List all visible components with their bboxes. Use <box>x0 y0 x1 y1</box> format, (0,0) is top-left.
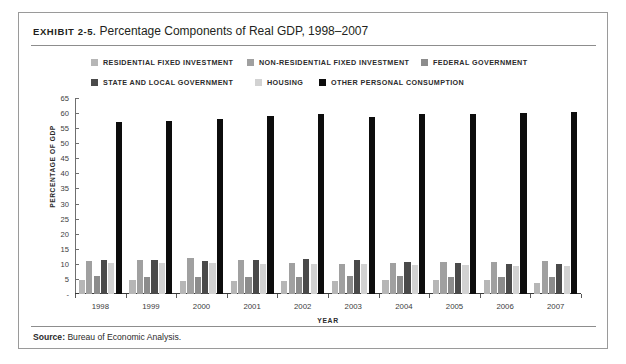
y-axis-tick-label: 40 <box>45 169 69 178</box>
y-axis-tick-label: 45 <box>45 154 69 163</box>
y-axis-tick-label: 60 <box>45 109 69 118</box>
chart-bar[interactable] <box>267 116 273 294</box>
chart-bar[interactable] <box>101 260 107 294</box>
x-axis-tick-mark <box>530 294 531 298</box>
x-axis-tick-mark <box>379 294 380 298</box>
chart-bar[interactable] <box>116 122 122 294</box>
chart-bar[interactable] <box>419 114 425 294</box>
bar-group <box>126 98 177 294</box>
chart-bar[interactable] <box>253 260 259 294</box>
chart-bar[interactable] <box>470 114 476 294</box>
x-axis-tick-label: 2005 <box>428 302 482 311</box>
bar-group <box>277 98 328 294</box>
chart-bar[interactable] <box>542 261 548 294</box>
chart-bar[interactable] <box>166 121 172 294</box>
chart-bar[interactable] <box>296 277 302 294</box>
chart-bar[interactable] <box>303 259 309 294</box>
x-axis-tick-label: 2006 <box>478 302 532 311</box>
chart-bar[interactable] <box>354 260 360 294</box>
chart-bar[interactable] <box>260 264 266 294</box>
chart-bar[interactable] <box>491 262 497 294</box>
y-axis-tick-label: 20 <box>45 229 69 238</box>
chart-bar[interactable] <box>94 276 100 294</box>
chart-bar[interactable] <box>311 264 317 294</box>
x-axis-tick-label: 2000 <box>175 302 229 311</box>
x-axis-tick-mark <box>581 294 582 298</box>
x-axis-tick-mark <box>328 294 329 298</box>
chart-bar[interactable] <box>245 277 251 294</box>
y-axis-tick-label: 5 <box>45 274 69 283</box>
chart-bar[interactable] <box>412 265 418 294</box>
chart-bar[interactable] <box>187 258 193 294</box>
chart-bar[interactable] <box>332 281 338 294</box>
x-axis-tick-label: 2003 <box>326 302 380 311</box>
bar-group <box>75 98 126 294</box>
x-axis-tick-mark <box>176 294 177 298</box>
y-axis-tick-label: 50 <box>45 139 69 148</box>
chart-bar[interactable] <box>79 280 85 294</box>
chart-bar[interactable] <box>347 276 353 294</box>
chart-bar[interactable] <box>318 114 324 294</box>
chart-bar[interactable] <box>289 263 295 294</box>
y-axis-tick-label: 25 <box>45 214 69 223</box>
chart-bar[interactable] <box>159 263 165 294</box>
x-axis-tick-mark <box>429 294 430 298</box>
x-axis-tick-label: 2004 <box>377 302 431 311</box>
chart-bar[interactable] <box>281 281 287 294</box>
chart-bar[interactable] <box>404 262 410 294</box>
chart-bar[interactable] <box>513 266 519 294</box>
x-axis-tick-label: 2007 <box>529 302 583 311</box>
bar-group <box>530 98 581 294</box>
chart-bar[interactable] <box>108 263 114 294</box>
chart-bar[interactable] <box>369 117 375 294</box>
chart-bar[interactable] <box>506 264 512 294</box>
chart-bar[interactable] <box>129 280 135 294</box>
y-axis-tick-label: 35 <box>45 184 69 193</box>
chart-bar[interactable] <box>433 280 439 294</box>
chart-bar[interactable] <box>571 112 577 294</box>
x-axis-title: YEAR <box>75 317 581 324</box>
x-axis-tick-label: 2001 <box>225 302 279 311</box>
chart-bar[interactable] <box>382 280 388 294</box>
chart-bar[interactable] <box>549 277 555 294</box>
chart-bar[interactable] <box>390 263 396 294</box>
chart-bar[interactable] <box>556 264 562 294</box>
chart-bar[interactable] <box>195 277 201 294</box>
bar-group <box>227 98 278 294</box>
bar-group <box>379 98 430 294</box>
chart-bar[interactable] <box>180 281 186 294</box>
chart-bar[interactable] <box>231 281 237 294</box>
chart-bar[interactable] <box>455 263 461 294</box>
y-axis-tick-label: 55 <box>45 124 69 133</box>
chart-bar[interactable] <box>534 283 540 294</box>
source-line: Source: Bureau of Economic Analysis. <box>33 332 181 342</box>
chart-bar[interactable] <box>462 265 468 294</box>
x-axis-tick-label: 1998 <box>73 302 127 311</box>
y-axis-tick-label: 30 <box>45 199 69 208</box>
y-axis-tick-label: - <box>45 290 69 299</box>
chart-bar[interactable] <box>484 280 490 294</box>
chart-bar[interactable] <box>144 277 150 294</box>
source-label: Source: <box>33 332 65 342</box>
chart-bar[interactable] <box>440 262 446 294</box>
chart-bar[interactable] <box>498 277 504 294</box>
chart-bar[interactable] <box>397 276 403 294</box>
bar-group <box>480 98 531 294</box>
chart-bar[interactable] <box>361 264 367 294</box>
chart-bar[interactable] <box>448 277 454 294</box>
chart-bar[interactable] <box>339 264 345 294</box>
chart-bar[interactable] <box>564 266 570 294</box>
chart-bar[interactable] <box>86 261 92 294</box>
y-axis-tick-label: 10 <box>45 259 69 268</box>
chart-bar[interactable] <box>209 263 215 294</box>
chart-bar[interactable] <box>202 261 208 294</box>
chart-plot-area: PERCENTAGE OF GDP 6560555045403530252015… <box>19 13 609 350</box>
chart-bar[interactable] <box>217 119 223 294</box>
y-axis-tick-label: 65 <box>45 94 69 103</box>
bars-and-axes: 6560555045403530252015105-19981999200020… <box>75 98 581 294</box>
y-axis-tick-label: 15 <box>45 244 69 253</box>
chart-bar[interactable] <box>238 260 244 294</box>
chart-bar[interactable] <box>151 260 157 294</box>
chart-bar[interactable] <box>520 113 526 294</box>
chart-bar[interactable] <box>137 260 143 294</box>
